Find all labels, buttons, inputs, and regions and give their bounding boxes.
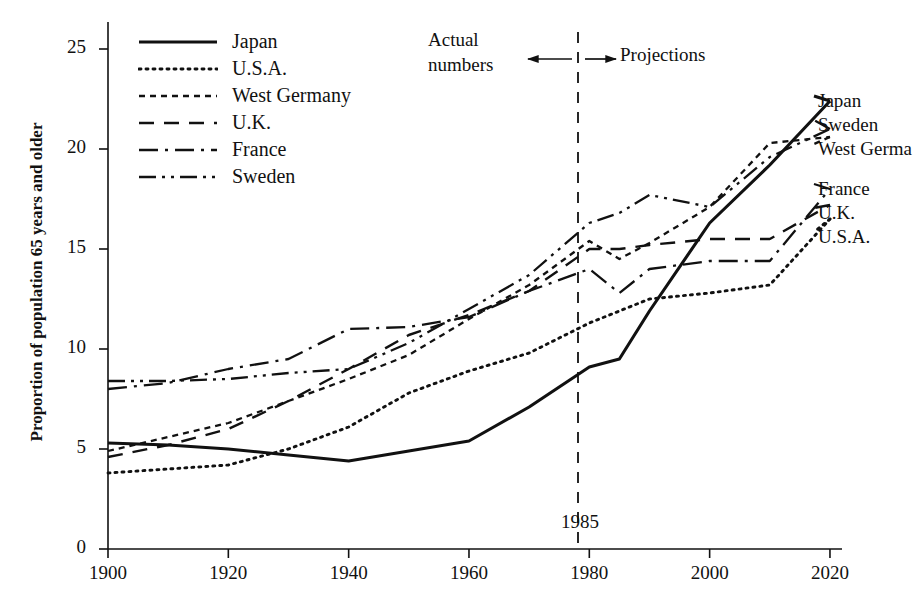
- y-axis-ticks: [99, 49, 108, 549]
- y-tick-label-15: 15: [40, 236, 86, 258]
- annotation-actual-line1: Actual: [428, 27, 493, 52]
- x-axis-ticks: [108, 549, 830, 558]
- legend-swatch-icon: [138, 87, 218, 105]
- y-tick-label-10: 10: [40, 336, 86, 358]
- x-tick-label-1980: 1980: [554, 562, 624, 584]
- end-label-france: France: [818, 178, 870, 200]
- legend-label: West Germany: [218, 84, 351, 107]
- legend-label: U.K.: [218, 111, 271, 134]
- end-label-uk: U.K.: [818, 202, 855, 224]
- legend-swatch-icon: [138, 168, 218, 186]
- series-line-france: [108, 189, 830, 389]
- annotation-actual-numbers: Actual numbers: [428, 27, 493, 77]
- legend-label: Japan: [218, 30, 278, 53]
- end-label-usa: U.S.A.: [818, 226, 870, 248]
- end-label-japan: Japan: [818, 90, 861, 112]
- x-tick-label-2000: 2000: [675, 562, 745, 584]
- chart-figure: Proportion of population 65 years and ol…: [0, 0, 918, 603]
- y-tick-label-20: 20: [40, 136, 86, 158]
- x-tick-label-1940: 1940: [314, 562, 384, 584]
- legend-swatch-icon: [138, 114, 218, 132]
- legend-label: Sweden: [218, 165, 295, 188]
- legend-swatch-icon: [138, 60, 218, 78]
- legend-swatch-icon: [138, 141, 218, 159]
- legend-item-japan: Japan: [138, 28, 418, 55]
- x-tick-label-1920: 1920: [193, 562, 263, 584]
- annotation-projections: Projections: [620, 44, 706, 66]
- y-tick-label-25: 25: [40, 36, 86, 58]
- annotation-actual-line2: numbers: [428, 52, 493, 77]
- x-tick-label-1900: 1900: [73, 562, 143, 584]
- legend-item-sweden: Sweden: [138, 163, 418, 190]
- series-line-u-k: [108, 205, 830, 457]
- legend-swatch-icon: [138, 33, 218, 51]
- series-line-u-s-a: [108, 219, 830, 473]
- legend-item-u-s-a: U.S.A.: [138, 55, 418, 82]
- legend-label: U.S.A.: [218, 57, 287, 80]
- legend-label: France: [218, 138, 286, 161]
- legend-item-france: France: [138, 136, 418, 163]
- y-tick-label-0: 0: [40, 536, 86, 558]
- legend-item-u-k: U.K.: [138, 109, 418, 136]
- chart-legend: JapanU.S.A.West GermanyU.K.FranceSweden: [138, 28, 418, 190]
- legend-item-west-germany: West Germany: [138, 82, 418, 109]
- end-label-sweden: Sweden: [818, 114, 878, 136]
- year-marker-label: 1985: [545, 511, 615, 533]
- x-tick-label-2020: 2020: [795, 562, 865, 584]
- x-tick-label-1960: 1960: [434, 562, 504, 584]
- end-label-west-germany: West Germa: [818, 138, 912, 160]
- y-tick-label-5: 5: [40, 436, 86, 458]
